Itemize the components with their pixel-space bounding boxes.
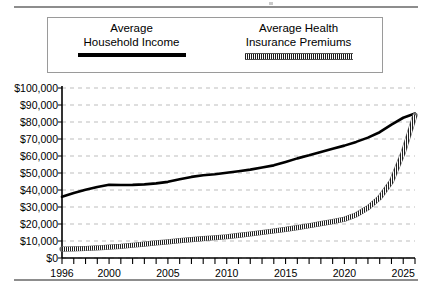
y-axis-tick-label: $40,000: [20, 185, 58, 196]
y-axis-tick-label: $50,000: [20, 168, 58, 179]
legend-label-premium-line2: Insurance Premiums: [246, 36, 351, 50]
x-axis-tick-label: 2010: [215, 268, 238, 279]
x-axis-tick-label: 2000: [97, 268, 120, 279]
x-axis-tick-label: 2015: [274, 268, 297, 279]
data-series: [62, 114, 415, 250]
plot-area: [0, 78, 432, 278]
legend-swatch-premium-icon: [245, 53, 353, 60]
line-chart: $0$10,000$20,000$30,000$40,000$50,000$60…: [0, 78, 432, 278]
legend-item-average-household-income: Average Household Income: [48, 18, 215, 72]
legend-swatch-income-icon: [78, 53, 186, 57]
y-axis-tick-label: $30,000: [20, 202, 58, 213]
legend-label-premium-line1: Average Health: [259, 22, 338, 36]
top-speck-mark: [269, 2, 273, 5]
legend-label-income-line1: Average: [110, 22, 153, 36]
y-axis-tick-label: $10,000: [20, 236, 58, 247]
gridlines: [62, 88, 415, 258]
x-axis-tick-label: 2025: [392, 268, 415, 279]
x-axis-tick-label: 1996: [50, 268, 73, 279]
y-axis-tick-label: $90,000: [20, 100, 58, 111]
bottom-divider-rule: [14, 279, 418, 281]
x-axis-tick-label: 2020: [333, 268, 356, 279]
legend-label-income-line2: Household Income: [84, 36, 180, 50]
y-axis-tick-label: $80,000: [20, 117, 58, 128]
y-axis-tick-label: $70,000: [20, 134, 58, 145]
legend-item-average-health-insurance-premiums: Average Health Insurance Premiums: [215, 18, 382, 72]
top-divider-rule: [14, 6, 418, 8]
x-axis-tick-label: 2005: [156, 268, 179, 279]
y-axis-tick-label: $60,000: [20, 151, 58, 162]
y-axis-tick-label: $100,000: [14, 83, 58, 94]
y-axis-tick-label: $20,000: [20, 219, 58, 230]
x-axis-ticks: [62, 258, 415, 264]
chart-legend: Average Household Income Average Health …: [47, 17, 383, 73]
y-axis-tick-label: $0: [46, 253, 58, 264]
